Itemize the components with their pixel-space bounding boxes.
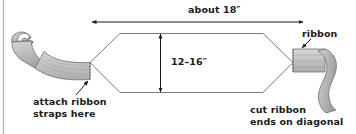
diagram-figure: about 18″ 12–16″ ribbon attach ribbon st… [0, 0, 356, 134]
width-dimension-label: about 18″ [188, 4, 241, 15]
cut-callout-line-2: ends on diagonal [250, 116, 343, 128]
attach-callout-line-2: straps here [33, 108, 107, 120]
left-ribbon-graphic [12, 32, 90, 80]
attach-callout-leader [76, 81, 88, 95]
attach-ribbon-callout-label: attach ribbon straps here [33, 96, 107, 120]
height-dimension-label: 12–16″ [171, 56, 207, 67]
ribbon-callout-label: ribbon [302, 28, 337, 40]
ribbon-callout-line-1: ribbon [302, 28, 337, 40]
cut-callout-line-1: cut ribbon [250, 104, 343, 116]
ribbon-callout-leader [302, 39, 311, 48]
cut-ribbon-callout-label: cut ribbon ends on diagonal [250, 104, 343, 128]
attach-callout-line-1: attach ribbon [33, 96, 107, 108]
